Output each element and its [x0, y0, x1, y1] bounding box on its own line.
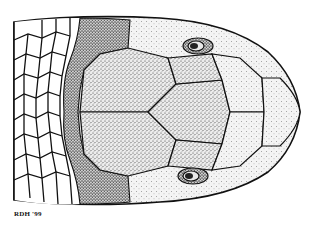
eye-left: [183, 38, 213, 54]
illustration: RDH '99: [0, 0, 314, 230]
snake-head-drawing: [0, 0, 314, 230]
artist-signature: RDH '99: [14, 210, 42, 218]
eye-right: [178, 168, 208, 184]
